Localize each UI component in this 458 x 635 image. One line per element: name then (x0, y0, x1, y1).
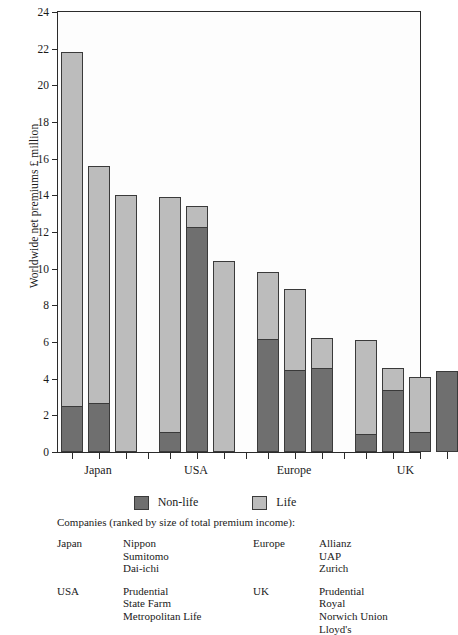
company-name: UAP (319, 550, 351, 563)
bar-segment-life (311, 338, 333, 368)
legend: Non-lifeLife (0, 495, 430, 510)
caption-line: Companies (ranked by size of total premi… (57, 517, 295, 528)
x-axis-tick-separator (246, 452, 247, 459)
bar-uk-2 (409, 377, 431, 452)
bar-segment-nonlife (409, 432, 431, 452)
x-axis-tick-separator (344, 452, 345, 459)
x-axis-tick (197, 452, 198, 459)
y-axis-tick-label: 10 (38, 263, 50, 275)
legend-item-nonlife: Non-life (134, 495, 199, 510)
bar-europe-2 (311, 338, 333, 452)
y-axis-tick-label: 6 (43, 336, 49, 348)
company-block-europe: EuropeAllianzUAPZurich (253, 537, 430, 575)
x-axis-tick (366, 452, 367, 459)
x-axis-tick (224, 452, 225, 459)
x-axis-group-label-uk: UK (397, 463, 414, 478)
y-axis-tick (52, 342, 58, 343)
bar-usa-1 (186, 206, 208, 452)
bar-segment-nonlife (159, 432, 181, 452)
y-axis-tick (52, 195, 58, 196)
company-column-0: JapanNipponSumitomoDai-ichiUSAPrudential… (57, 537, 253, 635)
y-axis-tick (52, 379, 58, 380)
x-axis-tick (268, 452, 269, 459)
company-name: Zurich (319, 562, 351, 575)
x-axis-tick (170, 452, 171, 459)
bar-usa-0 (159, 197, 181, 452)
bar-segment-nonlife (355, 434, 377, 452)
bar-segment-life (284, 289, 306, 370)
legend-swatch-life-icon (252, 496, 267, 510)
bar-segment-nonlife (186, 227, 208, 452)
bar-segment-nonlife (436, 371, 458, 452)
x-axis-tick (295, 452, 296, 459)
company-name: Norwich Union (319, 610, 388, 623)
bar-uk-0 (355, 340, 377, 452)
y-axis-tick (52, 49, 58, 50)
plot-area: 024681012141618202224 (57, 11, 421, 453)
x-axis-tick-separator (148, 452, 149, 459)
company-block-region: Japan (57, 537, 123, 575)
x-axis-tick (447, 452, 448, 459)
y-axis-tick (52, 415, 58, 416)
y-axis-tick-label: 0 (43, 446, 49, 458)
company-name: Nippon (123, 537, 169, 550)
x-axis-tick (72, 452, 73, 459)
bar-japan-1 (88, 166, 110, 452)
bar-segment-life (88, 166, 110, 403)
company-block-uk: UKPrudentialRoyalNorwich UnionLloyd's (253, 585, 430, 635)
company-list: JapanNipponSumitomoDai-ichiUSAPrudential… (57, 537, 430, 635)
y-axis-tick (52, 12, 58, 13)
bar-segment-nonlife (257, 339, 279, 452)
x-axis-tick (322, 452, 323, 459)
y-axis-tick-label: 24 (38, 6, 50, 18)
y-axis-tick (52, 85, 58, 86)
y-axis-tick (52, 232, 58, 233)
x-axis-tick (393, 452, 394, 459)
company-block-japan: JapanNipponSumitomoDai-ichi (57, 537, 253, 575)
company-name: Sumitomo (123, 550, 169, 563)
y-axis-tick-label: 22 (38, 43, 50, 55)
company-column-1: EuropeAllianzUAPZurichUKPrudentialRoyalN… (253, 537, 430, 635)
x-axis-group-label-europe: Europe (277, 463, 312, 478)
plot-inner: 024681012141618202224 (58, 12, 420, 452)
x-axis-group-label-usa: USA (184, 463, 208, 478)
bar-segment-nonlife (61, 406, 83, 452)
bar-europe-0 (257, 272, 279, 452)
y-axis-tick-label: 20 (38, 79, 50, 91)
bar-segment-nonlife (88, 403, 110, 452)
x-axis-group-label-japan: Japan (84, 463, 111, 478)
y-axis-tick-label: 4 (43, 373, 49, 385)
company-block-usa: USAPrudentialState FarmMetropolitan Life (57, 585, 253, 623)
y-axis-tick-label: 2 (43, 409, 49, 421)
bar-usa-2 (213, 261, 235, 452)
y-axis-tick-label: 8 (43, 299, 49, 311)
y-axis-tick (52, 305, 58, 306)
company-block-region: Europe (253, 537, 319, 575)
company-name: Allianz (319, 537, 351, 550)
bar-segment-life (355, 340, 377, 434)
legend-item-life: Life (252, 495, 296, 510)
x-axis-tick (99, 452, 100, 459)
bar-segment-life (213, 261, 235, 452)
y-axis-tick (52, 122, 58, 123)
company-name: Prudential (319, 585, 388, 598)
bar-segment-life (61, 52, 83, 406)
bar-uk-3 (436, 371, 458, 452)
bar-segment-life (186, 206, 208, 227)
company-names: AllianzUAPZurich (319, 537, 351, 575)
bar-segment-life (409, 377, 431, 432)
bar-segment-nonlife (382, 390, 404, 452)
company-block-region: USA (57, 585, 123, 623)
bar-uk-1 (382, 368, 404, 452)
company-block-region: UK (253, 585, 319, 635)
y-axis-tick-label: 18 (38, 116, 50, 128)
bar-segment-nonlife (311, 368, 333, 452)
bar-segment-nonlife (284, 370, 306, 452)
company-name: Prudential (123, 585, 202, 598)
bar-segment-life (115, 195, 137, 452)
caption: Companies (ranked by size of total premi… (57, 517, 295, 528)
legend-label: Life (276, 495, 296, 510)
bar-segment-life (382, 368, 404, 391)
y-axis-tick-label: 12 (38, 226, 50, 238)
company-name: State Farm (123, 597, 202, 610)
